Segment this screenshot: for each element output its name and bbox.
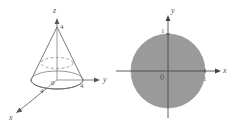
cone-3d-figure: z y x 4 4 4 0 bbox=[0, 0, 116, 122]
x-axis-label: x bbox=[8, 113, 13, 122]
y-axis-label: y bbox=[102, 75, 107, 84]
origin-label: 0 bbox=[160, 73, 164, 82]
z-axis-label: z bbox=[52, 6, 57, 15]
cone-body bbox=[31, 27, 83, 89]
origin-label: 0 bbox=[51, 79, 55, 87]
figure-panel: z y x 4 4 4 0 bbox=[0, 0, 232, 122]
disk-svg: y x 1 1 0 bbox=[116, 0, 232, 122]
z-axis-arrowhead bbox=[55, 18, 60, 24]
x-tick-label-4: 4 bbox=[40, 87, 44, 95]
y-axis-arrowhead bbox=[166, 15, 171, 21]
y-tick-label-4: 4 bbox=[80, 82, 84, 90]
y-tick-label-1: 1 bbox=[161, 27, 165, 35]
cone-svg: z y x 4 4 4 0 bbox=[0, 0, 116, 122]
x-axis-arrowhead bbox=[215, 69, 221, 74]
x-tick-label-1: 1 bbox=[203, 75, 207, 83]
x-axis-label: x bbox=[222, 66, 227, 75]
y-axis-label: y bbox=[170, 6, 175, 15]
shaded-disk-figure: y x 1 1 0 bbox=[116, 0, 232, 122]
z-tick-label-4: 4 bbox=[60, 23, 64, 31]
y-axis-arrowhead bbox=[94, 78, 100, 83]
